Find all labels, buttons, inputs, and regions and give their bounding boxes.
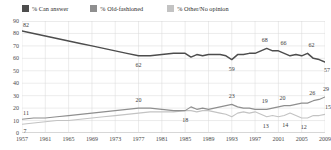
x-axis-tick-label: 1985 xyxy=(179,136,191,143)
x-axis-tick-label: 1961 xyxy=(39,136,51,143)
data-point-label: 26 xyxy=(309,90,315,96)
legend-label-old-fashioned: % Old-fashioned xyxy=(100,5,143,12)
y-axis-tick-label: 30 xyxy=(13,93,19,99)
data-point-label: 19 xyxy=(262,98,268,104)
data-point-label: 20 xyxy=(279,95,285,101)
data-point-label: 57 xyxy=(324,67,330,73)
y-axis-tick-label: 70 xyxy=(13,43,19,49)
legend-item-other-no-opinion[interactable]: % Other/No opinion xyxy=(167,0,228,17)
data-point-label: 62 xyxy=(309,42,315,48)
data-point-label: 7 xyxy=(24,128,27,134)
data-point-label: 11 xyxy=(23,110,29,116)
legend-item-old-fashioned[interactable]: % Old-fashioned xyxy=(90,0,143,17)
legend-swatch-other-no-opinion xyxy=(167,5,174,12)
plot-area: 826259686662571120231920262971813141215 xyxy=(22,21,325,133)
x-axis-tick-label: 1993 xyxy=(226,136,238,143)
data-point-label: 29 xyxy=(323,86,329,92)
y-axis-tick-label: 10 xyxy=(13,118,19,124)
data-point-label: 59 xyxy=(229,66,235,72)
y-axis-tick-label: 60 xyxy=(13,55,19,61)
data-point-label: 82 xyxy=(23,22,29,28)
y-axis-tick-label: 50 xyxy=(13,68,19,74)
data-point-label: 66 xyxy=(280,40,286,46)
y-axis-tick-label: 90 xyxy=(13,18,19,24)
y-axis: 9080706050403020100 xyxy=(0,21,21,133)
data-point-label: 20 xyxy=(136,97,142,103)
x-axis-tick-label: 1989 xyxy=(202,136,214,143)
data-point-label: 12 xyxy=(301,124,307,130)
data-point-label: 14 xyxy=(282,122,288,128)
data-point-label: 62 xyxy=(136,62,142,68)
x-axis-tick-label: 2001 xyxy=(272,136,284,143)
x-axis-tick-label: 1965 xyxy=(63,136,75,143)
legend-swatch-can-answer xyxy=(22,5,29,12)
data-point-label: 15 xyxy=(325,104,331,110)
y-axis-tick-label: 20 xyxy=(13,105,19,111)
data-point-label: 68 xyxy=(262,37,268,43)
legend-swatch-old-fashioned xyxy=(90,5,97,12)
plot-svg xyxy=(22,21,325,133)
data-point-label: 18 xyxy=(182,117,188,123)
x-axis-tick-label: 1981 xyxy=(156,136,168,143)
x-axis-tick-label: 2005 xyxy=(296,136,308,143)
x-axis-tick-label: 1977 xyxy=(133,136,145,143)
y-axis-tick-label: 80 xyxy=(13,30,19,36)
x-axis-tick-label: 1997 xyxy=(249,136,261,143)
legend-item-can-answer[interactable]: % Can answer xyxy=(22,0,68,17)
chart-legend: % Can answer % Old-fashioned % Other/No … xyxy=(0,0,327,17)
legend-label-can-answer: % Can answer xyxy=(32,5,68,12)
x-axis: 1957196119651969197319771981198519891993… xyxy=(22,136,325,148)
legend-label-other-no-opinion: % Other/No opinion xyxy=(177,5,228,12)
x-axis-tick-label: 1957 xyxy=(16,136,28,143)
data-point-label: 23 xyxy=(229,93,235,99)
x-axis-tick-label: 2009 xyxy=(319,136,331,143)
y-axis-tick-label: 40 xyxy=(13,80,19,86)
x-axis-tick-label: 1969 xyxy=(86,136,98,143)
x-axis-tick-label: 1973 xyxy=(109,136,121,143)
data-point-label: 13 xyxy=(263,123,269,129)
